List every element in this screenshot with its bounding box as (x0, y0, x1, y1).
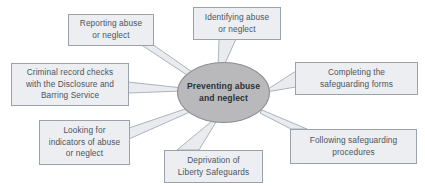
node-looking-for-indicators[interactable]: Looking for indicators of abuse or negle… (39, 120, 130, 165)
node-label-deprivation-liberty-safeguards: Deprivation of Liberty Safeguards (178, 155, 249, 178)
center-node-label: Preventing abuse and neglect (187, 81, 260, 104)
node-criminal-record-checks[interactable]: Criminal record checks with the Disclosu… (11, 63, 129, 106)
connector-completing-forms (266, 71, 296, 92)
node-reporting-abuse[interactable]: Reporting abuse or neglect (68, 14, 154, 46)
node-deprivation-liberty-safeguards[interactable]: Deprivation of Liberty Safeguards (164, 150, 263, 183)
connector-following-procedures (260, 110, 307, 129)
node-label-following-safeguarding-procedures: Following safeguarding procedures (310, 135, 398, 158)
preventing-abuse-spider-diagram: Reporting abuse or neglect Identifying a… (0, 0, 425, 187)
connector-criminal-record-checks (128, 82, 183, 93)
center-node-preventing-abuse[interactable]: Preventing abuse and neglect (177, 62, 270, 123)
node-label-identifying-abuse: Identifying abuse or neglect (205, 12, 269, 35)
connector-looking-for-indicators (129, 108, 190, 139)
node-following-safeguarding-procedures[interactable]: Following safeguarding procedures (290, 129, 417, 164)
connector-deprivation-liberty (177, 121, 216, 150)
node-identifying-abuse[interactable]: Identifying abuse or neglect (193, 7, 281, 40)
node-label-completing-safeguarding-forms: Completing the safeguarding forms (320, 67, 393, 90)
node-label-looking-for-indicators: Looking for indicators of abuse or negle… (49, 125, 121, 160)
node-label-criminal-record-checks: Criminal record checks with the Disclosu… (26, 67, 114, 102)
node-label-reporting-abuse: Reporting abuse or neglect (80, 18, 142, 41)
node-completing-safeguarding-forms[interactable]: Completing the safeguarding forms (295, 62, 418, 95)
